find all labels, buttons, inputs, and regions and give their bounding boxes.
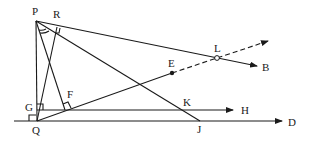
segment-PJ [36,21,200,121]
label-K: K [183,96,191,108]
point-L-circle [215,56,220,61]
label-H: H [241,104,249,116]
label-J: J [197,123,202,135]
segment-PF [36,21,65,110]
label-B: B [262,61,269,73]
geometry-diagram: P R G Q F E L B K H J D [0,0,311,141]
right-angle-Q [29,115,36,121]
segment-QE [37,73,172,121]
point-E-dot [170,71,174,75]
segment-PQ [36,21,37,121]
label-G: G [25,101,33,113]
label-L: L [214,42,221,54]
angle-arc-P-inner [39,29,46,30]
label-D: D [288,116,296,128]
label-P: P [32,5,38,17]
segment-QR [37,27,57,121]
ray-PB [36,21,257,66]
angle-arc-P-outer [40,31,49,33]
label-E: E [168,57,175,69]
label-R: R [53,8,61,20]
label-F: F [67,88,73,100]
label-Q: Q [32,124,40,136]
